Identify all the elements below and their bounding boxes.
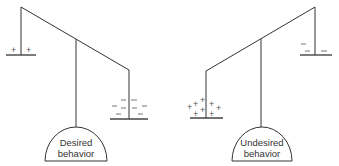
- plus-sign-icon: +: [216, 103, 221, 113]
- plus-sign-icon: +: [193, 109, 198, 119]
- plus-sign-icon: +: [209, 109, 214, 119]
- plus-sign-icon: +: [187, 102, 192, 112]
- plus-sign-icon: +: [209, 99, 214, 109]
- beam: [21, 7, 129, 70]
- undesired-behavior-balance: + + + + + + + + Undesired behavior: [187, 7, 332, 161]
- dome-label-line1: Desired: [60, 137, 93, 148]
- dome-label-line2: behavior: [244, 148, 280, 159]
- plus-sign-icon: +: [26, 45, 31, 55]
- plus-sign-icon: +: [11, 45, 16, 55]
- dome-label-line1: Undesired: [240, 137, 283, 148]
- balance-diagram: + + Desired behavior + + + + +: [0, 0, 339, 166]
- minus-weights: [301, 44, 327, 51]
- dome-label-line2: behavior: [58, 148, 94, 159]
- desired-behavior-balance: + + Desired behavior: [6, 7, 148, 161]
- plus-sign-icon: +: [193, 99, 198, 109]
- plus-weights: + + + + + + + +: [187, 95, 221, 119]
- plus-sign-icon: +: [200, 95, 205, 105]
- plus-sign-icon: +: [200, 105, 205, 115]
